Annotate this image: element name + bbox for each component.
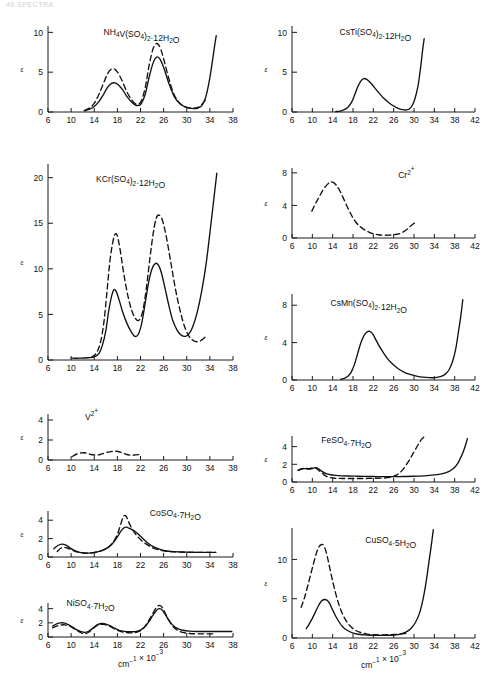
panel-nh4v: 610141822263034380510εNH4V(SO4)2·12H2O [0, 14, 245, 138]
panel-csmn: 6101418222630343842048εCsMn(SO4)2·12H2O [246, 272, 485, 406]
svg-text:10: 10 [66, 560, 76, 570]
svg-text:34: 34 [205, 363, 215, 373]
svg-text:FeSO4·7H2O: FeSO4·7H2O [321, 435, 371, 449]
curve-coso4-dashed [57, 515, 215, 553]
y-axis-ticks: 048 [282, 168, 297, 243]
svg-text:30: 30 [409, 383, 419, 393]
svg-text:10: 10 [66, 363, 76, 373]
svg-text:30: 30 [182, 560, 192, 570]
svg-text:CsTi(SO4)2·12H2O: CsTi(SO4)2·12H2O [340, 27, 412, 44]
svg-text:18: 18 [113, 560, 123, 570]
svg-text:10: 10 [66, 115, 76, 125]
svg-text:6: 6 [290, 115, 295, 125]
svg-text:0: 0 [38, 552, 43, 562]
svg-text:14: 14 [328, 383, 338, 393]
axes [48, 414, 233, 460]
svg-text:26: 26 [159, 560, 169, 570]
x-axis-ticks: 6101418222630343842 [290, 478, 480, 495]
curve-nh4v-solid [84, 36, 216, 111]
svg-text:10: 10 [308, 641, 318, 651]
svg-text:0: 0 [38, 355, 43, 365]
svg-text:20: 20 [34, 173, 44, 183]
svg-text:30: 30 [409, 641, 419, 651]
svg-text:CuSO4·5H2O: CuSO4·5H2O [365, 535, 416, 549]
y-axis-ticks: 024 [38, 515, 53, 562]
svg-text:26: 26 [389, 641, 399, 651]
panel-v2: 61014182226303438024εV2+ [0, 400, 245, 486]
svg-text:V2+: V2+ [85, 407, 98, 421]
x-axis-ticks: 6101418222630343842 [290, 634, 480, 651]
y-axis-ticks: 05101520 [34, 173, 53, 365]
svg-text:2: 2 [38, 618, 43, 628]
svg-text:22: 22 [369, 383, 379, 393]
axes [48, 164, 233, 360]
y-axis-label: ε [264, 580, 268, 587]
x-axis-ticks: 61014182226303438 [46, 456, 238, 473]
svg-text:0: 0 [282, 233, 287, 243]
panel-kcr: 6101418222630343805101520εKCr(SO4)2·12H2… [0, 152, 245, 386]
panel-title: FeSO4·7H2O [321, 435, 371, 449]
curve-kcr-solid [71, 173, 217, 358]
curve-cuso4-dashed [301, 544, 407, 635]
svg-text:10: 10 [308, 485, 318, 495]
svg-text:18: 18 [348, 485, 358, 495]
svg-text:30: 30 [182, 115, 192, 125]
chart-csmn: 6101418222630343842048εCsMn(SO4)2·12H2O [246, 272, 485, 406]
svg-text:6: 6 [46, 363, 51, 373]
y-axis-ticks: 048 [282, 300, 297, 385]
svg-text:4: 4 [38, 415, 43, 425]
panel-cuso4: 61014182226303438420510εCuSO4·5H2Ocm−1 ×… [246, 512, 485, 680]
svg-text:ε: ε [264, 200, 268, 207]
svg-text:14: 14 [328, 641, 338, 651]
svg-text:6: 6 [46, 560, 51, 570]
x-axis-title: cm−1 × 10−3 [118, 648, 164, 669]
svg-text:38: 38 [228, 560, 238, 570]
svg-text:6: 6 [46, 640, 51, 650]
svg-text:26: 26 [159, 363, 169, 373]
svg-text:14: 14 [328, 485, 338, 495]
svg-text:10: 10 [34, 264, 44, 274]
y-axis-ticks: 024 [38, 415, 53, 465]
svg-text:22: 22 [136, 363, 146, 373]
svg-text:10: 10 [66, 640, 76, 650]
svg-text:22: 22 [369, 641, 379, 651]
svg-text:18: 18 [348, 383, 358, 393]
svg-text:10: 10 [308, 241, 318, 251]
svg-text:34: 34 [430, 115, 440, 125]
svg-text:26: 26 [159, 115, 169, 125]
svg-text:42: 42 [470, 241, 480, 251]
svg-text:6: 6 [46, 463, 51, 473]
svg-text:30: 30 [182, 363, 192, 373]
chart-cr2: 6101418222630343842048εCr2+ [246, 152, 485, 264]
svg-text:0: 0 [282, 107, 287, 117]
y-axis-ticks: 0510 [278, 28, 297, 118]
x-axis-title: cm−1 × 10−3 [361, 649, 407, 670]
y-axis-ticks: 0510 [34, 28, 53, 118]
svg-text:14: 14 [90, 363, 100, 373]
y-axis-label: ε [20, 617, 24, 624]
svg-text:ε: ε [264, 456, 268, 463]
svg-text:34: 34 [430, 485, 440, 495]
svg-text:34: 34 [430, 383, 440, 393]
svg-text:CsMn(SO4)2·12H2O: CsMn(SO4)2·12H2O [330, 298, 407, 315]
chart-coso4: 61014182226303438024εCoSO4·7H2O [0, 497, 245, 583]
svg-text:22: 22 [136, 640, 146, 650]
panel-title: CuSO4·5H2O [365, 535, 416, 549]
svg-text:30: 30 [409, 115, 419, 125]
x-axis-ticks: 61014182226303438 [46, 108, 238, 125]
svg-text:22: 22 [136, 115, 146, 125]
x-axis-ticks: 61014182226303438 [46, 553, 238, 570]
chart-csti: 61014182226303438420510εCsTi(SO4)2·12H2O [246, 14, 485, 138]
axes [292, 168, 475, 238]
svg-text:4: 4 [282, 201, 287, 211]
panel-title: Cr2+ [398, 165, 415, 179]
chart-nh4v: 610141822263034380510εNH4V(SO4)2·12H2O [0, 14, 245, 138]
svg-text:30: 30 [182, 640, 192, 650]
svg-text:0: 0 [282, 477, 287, 487]
svg-text:2: 2 [282, 460, 287, 470]
svg-text:26: 26 [389, 485, 399, 495]
curve-csti-solid [336, 39, 424, 112]
svg-text:34: 34 [205, 463, 215, 473]
svg-text:NiSO4·7H2O: NiSO4·7H2O [67, 598, 116, 612]
y-axis-label: ε [20, 66, 24, 73]
